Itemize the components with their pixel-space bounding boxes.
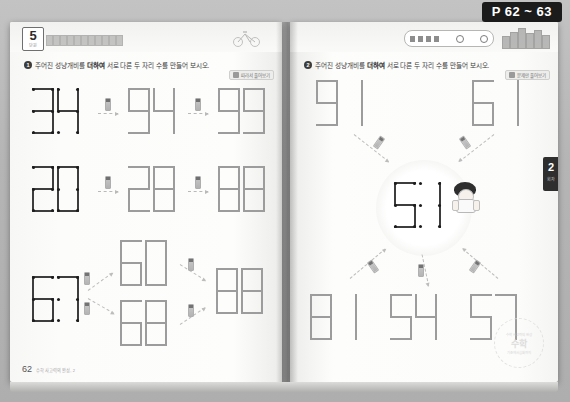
match-segment [243,88,265,90]
match-joint-dot [51,298,54,301]
match-segment [140,263,142,286]
left-row2-arrow-1 [98,176,118,192]
side-tab-sub: 회차 [543,177,558,182]
matchstick-digit [335,294,357,340]
matchstick-digit [497,80,519,126]
match-segment [310,294,332,296]
match-segment [243,88,245,111]
match-joint-dot [32,298,35,301]
match-segment [153,189,155,212]
match-segment [148,88,150,111]
match-segment [145,322,167,324]
match-segment [238,111,240,134]
match-joint-dot [32,88,35,91]
matchstick-digit [390,294,412,340]
match-segment [165,300,167,323]
left-row3-branch-bottom [120,300,167,346]
match-segment [390,294,392,317]
match-segment [390,338,412,340]
match-segment [173,166,175,189]
matchstick-digit [145,300,167,346]
matchstick-icon [84,302,90,315]
match-joint-dot [57,319,60,322]
match-segment [236,268,238,291]
matchstick-digit [145,240,167,286]
match-segment [128,110,150,112]
match-segment [415,316,437,318]
left-row3-branch-top [120,240,167,286]
left-row2-step2 [218,166,265,212]
match-segment [410,317,412,340]
left-row-3 [10,238,282,348]
match-segment [243,166,245,189]
match-segment [128,88,150,90]
match-segment [243,188,265,190]
right-page: 2주어진 성냥개비를 더하여 서로 다른 두 자리 수를 만들어 보시오. 문제… [290,22,558,382]
matchstick-icon [373,135,385,149]
match-segment [470,294,472,317]
left-row-1 [10,84,282,146]
left-row3-result [216,268,263,314]
match-segment [52,166,54,189]
match-segment [472,103,474,126]
match-segment [261,268,263,291]
branch-line-up [88,272,113,290]
match-segment [236,291,238,314]
match-segment [145,300,167,302]
match-segment [173,88,175,111]
left-help-chip[interactable]: 따라서 풀어보기 [229,70,274,80]
matchstick-icon [188,304,194,317]
right-top-number-1 [472,80,519,126]
match-joint-dot [57,88,60,91]
match-segment [218,188,240,190]
matchstick-digit [310,294,332,340]
match-segment [120,240,122,263]
match-segment [439,182,441,205]
left-footer: 62 수학 사고력의 완성, 2 [22,364,75,374]
match-segment [472,102,494,104]
match-segment [470,316,492,318]
left-instruction-before: 주어진 성냥개비를 [35,62,85,69]
match-segment [145,263,147,286]
left-help-chip-label: 따라서 풀어보기 [241,72,270,78]
matchstick-digit [218,166,240,212]
matchstick-icon [418,264,424,277]
match-segment [243,210,265,212]
left-row1-arrow-2 [188,98,208,114]
train-decoration-icon [46,28,124,48]
matchstick-digit [120,240,142,286]
matchstick-digit [57,166,79,212]
match-joint-dot [419,204,422,207]
branch-line-down [88,298,114,314]
matchstick-digit [32,166,54,212]
match-segment [330,294,332,317]
right-bottom-number-1 [390,294,437,340]
match-segment [77,276,79,299]
right-instruction-bold: 더하여 [367,62,385,69]
match-joint-dot [419,182,422,185]
match-segment [153,88,155,111]
match-segment [216,312,238,314]
matchstick-digit [153,166,175,212]
match-segment [241,312,263,314]
right-instruction: 2주어진 성냥개비를 더하여 서로 다른 두 자리 수를 만들어 보시오. [304,60,548,70]
page-range-chip: P 62 ~ 63 [482,2,562,22]
header-pill-decoration [404,30,494,47]
match-joint-dot [51,188,54,191]
match-joint-dot [438,225,441,228]
side-tab-session[interactable]: 2 회차 [543,157,558,191]
side-tab-number: 2 [543,157,558,177]
match-joint-dot [51,131,54,134]
match-segment [435,294,437,317]
bicycle-decoration-icon [230,28,264,48]
left-page-number: 62 [22,364,32,374]
match-joint-dot [394,225,397,228]
matchstick-digit [470,294,492,340]
match-segment [241,268,263,270]
matchstick-digit [128,88,150,134]
match-segment [32,276,34,299]
match-joint-dot [32,276,35,279]
match-joint-dot [32,131,35,134]
pill-dot-icon [456,35,464,43]
match-segment [120,284,142,286]
